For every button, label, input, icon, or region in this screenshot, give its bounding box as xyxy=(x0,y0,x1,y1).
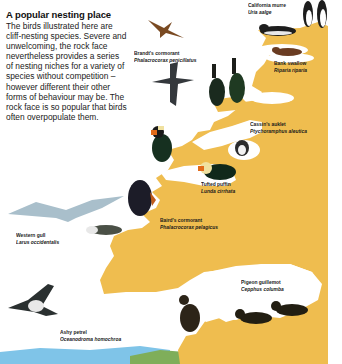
species-label-bairds-cormorant: Baird's cormorant Phalacrocorax pelagicu… xyxy=(160,217,218,230)
pigeon-guillemot-icon xyxy=(172,292,208,334)
species-label-brandts-cormorant: Brandt's cormorant Phalacrocorax penicil… xyxy=(134,50,196,63)
tufted-puffin-icon xyxy=(148,124,178,164)
bank-swallow-icon xyxy=(270,44,306,58)
california-murre-icon xyxy=(296,0,330,34)
western-gull-standing-icon xyxy=(84,222,124,238)
murre-lying-icon xyxy=(256,22,300,38)
species-label-california-murre: California murre Uria aalge xyxy=(248,2,286,15)
ashy-petrel-icon xyxy=(6,282,62,326)
species-label-ashy-petrel: Ashy petrel Oceanodroma homochroa xyxy=(60,329,121,342)
species-label-pigeon-guillemot: Pigeon guillemot Cepphus columba xyxy=(241,279,284,292)
brandts-cormorant-flying-icon xyxy=(148,58,200,110)
tufted-puffin-icon xyxy=(198,160,238,182)
intro-paragraph: The birds illustrated here are cliff-nes… xyxy=(6,21,128,122)
species-label-bank-swallow: Bank swallow Riparia riparia xyxy=(274,60,307,73)
species-label-western-gull: Western gull Larus occidentalis xyxy=(16,232,59,245)
pigeon-guillemot-icon xyxy=(268,298,312,318)
brandts-cormorant-icon xyxy=(224,56,248,106)
illustration-page: A popular nesting place The birds illust… xyxy=(0,0,342,364)
cassins-auklet-icon xyxy=(232,138,252,158)
species-label-tufted-puffin: Tufted puffin Lunda cirrhata xyxy=(201,181,235,194)
flying-bird-icon xyxy=(146,16,186,40)
bairds-cormorant-icon xyxy=(124,172,156,222)
species-label-cassins-auklet: Cassin's auklet Ptychoramphus aleutica xyxy=(250,121,307,134)
page-title: A popular nesting place xyxy=(6,9,111,20)
